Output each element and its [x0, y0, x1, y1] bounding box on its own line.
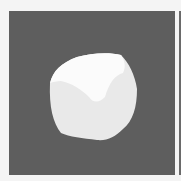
photo-frame	[9, 11, 175, 175]
right-edge-line	[179, 11, 181, 175]
object-illustration	[9, 11, 175, 175]
